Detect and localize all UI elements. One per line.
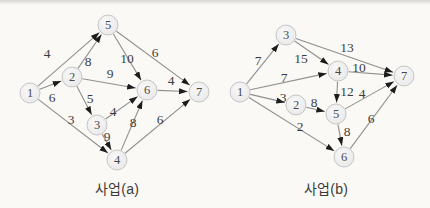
edge-weight-b-3-4: 15 (294, 51, 308, 66)
node-label: 6 (144, 83, 150, 97)
node-b-1: 1 (230, 82, 250, 102)
node-label: 3 (94, 118, 100, 132)
node-label: 6 (341, 150, 347, 164)
node-label: 1 (237, 85, 243, 99)
node-b-2: 2 (286, 95, 306, 115)
node-label: 7 (401, 69, 407, 83)
node-label: 7 (196, 85, 202, 99)
node-b-5: 5 (326, 104, 346, 124)
edge-weight-a-5-6: 10 (120, 51, 134, 66)
edge-weight-a-2-5: 8 (85, 54, 92, 69)
edge-weight-a-2-6: 9 (107, 66, 114, 81)
edge-weight-b-1-4: 7 (281, 70, 288, 85)
edge-weight-b-4-7: 10 (352, 60, 366, 75)
edge-weight-a-2-3: 5 (87, 91, 94, 106)
node-label: 1 (27, 86, 33, 100)
edge-weight-b-1-3: 7 (255, 53, 262, 68)
edge-weight-a-1-2: 6 (49, 90, 56, 105)
node-label: 3 (283, 28, 289, 42)
graph-caption-b: 사업(b) (304, 178, 349, 198)
node-a-6: 6 (137, 80, 157, 100)
node-label: 5 (105, 18, 111, 32)
edge-weight-b-1-6: 2 (297, 119, 304, 134)
edge-weight-b-6-7: 6 (368, 111, 375, 126)
edge-weight-b-1-2: 3 (280, 90, 287, 105)
edge-weight-b-4-5: 12 (340, 84, 354, 99)
edge-weight-b-3-7: 13 (340, 40, 354, 55)
node-label: 4 (114, 153, 121, 167)
node-b-6: 6 (334, 147, 354, 167)
edge-b-4-5 (337, 81, 338, 102)
node-a-3: 3 (87, 115, 107, 135)
edge-b-1-4 (250, 73, 326, 89)
edge-b-1-3 (247, 44, 279, 84)
node-label: 4 (335, 64, 342, 78)
graph-a: 463895106498641234567 (20, 15, 209, 170)
graph-b: 77321513101284861234567 (230, 25, 414, 167)
edge-b-5-6 (338, 124, 342, 145)
node-b-3: 3 (276, 25, 296, 45)
edge-weight-b-5-6: 8 (344, 124, 351, 139)
edge-weight-a-4-6: 8 (130, 115, 137, 130)
edge-weight-b-2-5: 8 (311, 95, 318, 110)
edge-weight-a-5-7: 6 (152, 45, 159, 60)
node-a-1: 1 (20, 83, 40, 103)
graph-caption-a: 사업(a) (95, 178, 140, 198)
node-label: 5 (333, 107, 339, 121)
node-label: 2 (69, 70, 75, 84)
edge-weight-a-3-6: 4 (110, 104, 117, 119)
edge-weight-a-1-4: 3 (68, 112, 75, 127)
node-label: 2 (293, 98, 299, 112)
node-a-2: 2 (62, 67, 82, 87)
edge-weight-a-6-7: 4 (168, 73, 175, 88)
edge-a-6-7 (157, 90, 187, 91)
edge-weight-a-4-7: 6 (157, 112, 164, 127)
node-a-7: 7 (189, 82, 209, 102)
network-diagrams: 4638951064986412345677732151310128486123… (0, 0, 430, 208)
node-b-4: 4 (328, 61, 348, 81)
edge-weight-b-5-7: 4 (359, 86, 366, 101)
node-a-4: 4 (107, 150, 127, 170)
node-b-7: 7 (394, 66, 414, 86)
node-a-5: 5 (98, 15, 118, 35)
edge-weight-a-1-5: 4 (44, 46, 51, 61)
